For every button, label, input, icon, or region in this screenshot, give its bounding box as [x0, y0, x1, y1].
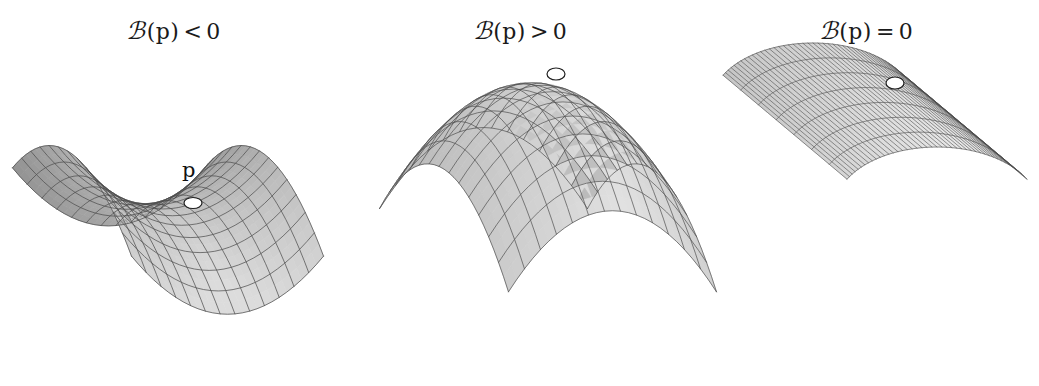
surface-cylinder — [693, 0, 1039, 386]
curvature-figure: ℬ(p)<0 p ℬ(p)>0 ℬ(p)=0 — [0, 0, 1039, 386]
point-marker-p — [886, 77, 904, 89]
panel-zero-curvature: ℬ(p)=0 — [693, 0, 1039, 386]
panel-positive-curvature: ℬ(p)>0 — [347, 0, 693, 386]
panel-negative-curvature: ℬ(p)<0 p — [0, 0, 347, 386]
surface-dome — [347, 0, 693, 386]
point-label-p: p — [182, 158, 195, 182]
point-marker-p — [184, 198, 202, 209]
surface-saddle — [0, 0, 347, 386]
point-marker-p — [547, 68, 565, 80]
